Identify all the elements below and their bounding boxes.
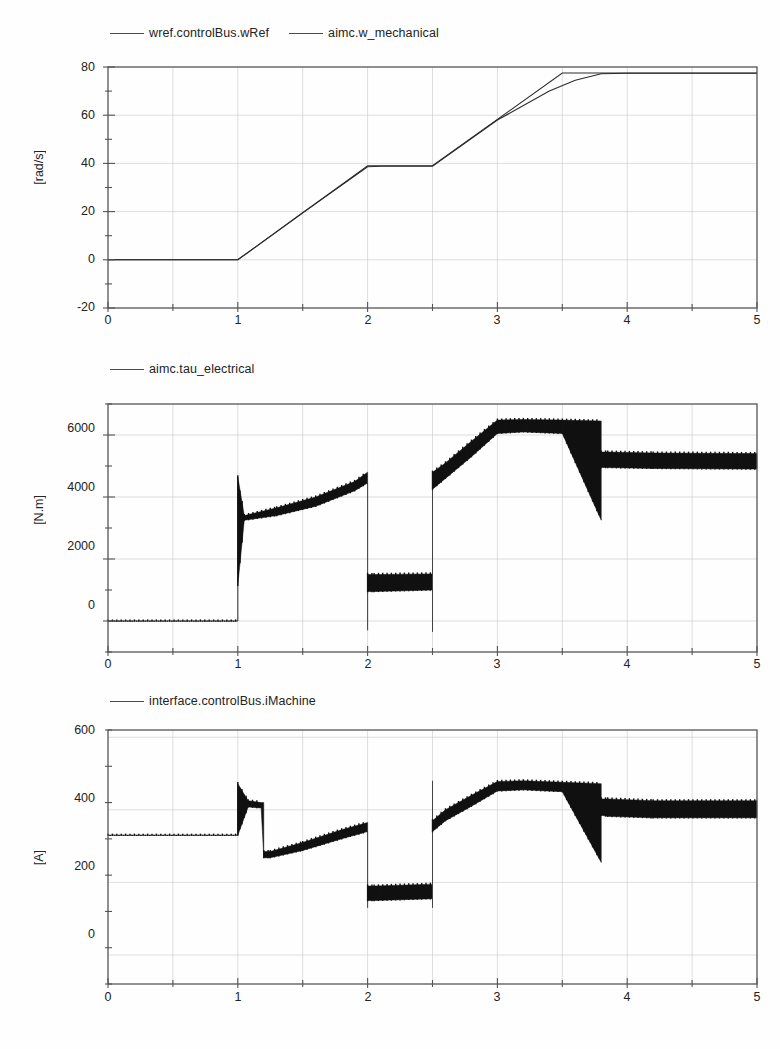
plot-canvas-current: [0, 680, 780, 1049]
plot-canvas-speed: [0, 0, 780, 340]
plot-page: wref.controlBus.wRef aimc.w_mechanical […: [0, 0, 780, 1049]
plot-panel-torque: aimc.tau_electrical [N.m] 6000 4000 2000…: [0, 340, 780, 680]
plot-panel-speed: wref.controlBus.wRef aimc.w_mechanical […: [0, 0, 780, 340]
plot-canvas-torque: [0, 340, 780, 680]
plot-panel-current: interface.controlBus.iMachine [A] 600 40…: [0, 680, 780, 1049]
